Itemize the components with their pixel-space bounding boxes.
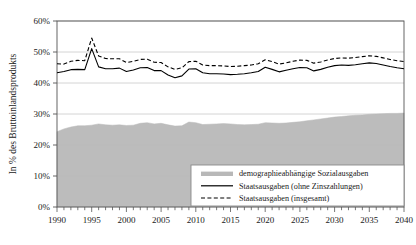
x-tick-label: 2015 [222, 215, 241, 225]
y-tick-label: 50% [34, 47, 51, 57]
y-tick-label: 0% [38, 202, 51, 212]
x-tick-label: 2010 [187, 215, 206, 225]
y-tick-label: 40% [34, 78, 51, 88]
y-tick-label: 10% [34, 171, 51, 181]
x-tick-label: 2025 [291, 215, 310, 225]
x-tick-label: 1995 [83, 215, 102, 225]
x-tick-label: 2005 [152, 215, 171, 225]
chart-container: 0%10%20%30%40%50%60% 1990199520002005201… [0, 0, 416, 245]
x-tick-label: 2020 [256, 215, 275, 225]
legend-label: Staatsausgaben (ohne Zinszahlungen) [239, 182, 363, 191]
x-tick-label: 2040 [395, 215, 414, 225]
legend-swatch-area [201, 172, 233, 176]
y-tick-label: 60% [34, 16, 51, 26]
legend-label: demographieabhängige Sozialausgaben [239, 169, 368, 178]
legend-label: Staatsausgaben (insgesamt) [239, 194, 330, 203]
x-tick-label: 2030 [326, 215, 345, 225]
y-tick-label: 20% [34, 140, 51, 150]
expenditure-area-line-chart: 0%10%20%30%40%50%60% 1990199520002005201… [0, 0, 416, 245]
x-tick-label: 1990 [48, 215, 67, 225]
chart-legend: demographieabhängige SozialausgabenStaat… [191, 165, 404, 206]
y-tick-label: 30% [34, 109, 51, 119]
x-tick-label: 2000 [117, 215, 136, 225]
y-axis-title: In % des Bruttoinlandsprodukts [8, 53, 18, 174]
x-tick-label: 2035 [360, 215, 379, 225]
